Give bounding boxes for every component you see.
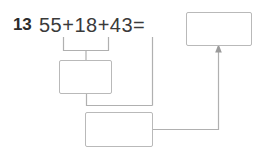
worksheet-problem-canvas: 13 55+18+43= (0, 0, 261, 163)
final-sum-value (86, 113, 152, 146)
total-answer-box[interactable] (186, 12, 252, 46)
arrow-to-total-box (153, 44, 222, 130)
math-expression: 55+18+43= (39, 13, 145, 37)
final-sum-box[interactable] (85, 112, 153, 147)
bracket-55-plus-18 (64, 37, 109, 60)
first-partial-sum-box[interactable] (59, 60, 112, 94)
first-partial-sum-value (60, 61, 111, 93)
problem-number: 13 (13, 15, 31, 35)
total-answer-value (187, 13, 251, 45)
branch-line-partial-sum (87, 94, 153, 106)
